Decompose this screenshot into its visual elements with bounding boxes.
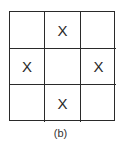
grid-cell-r2c2 — [45, 49, 81, 85]
grid-cell-r1c1 — [10, 12, 45, 49]
figure-caption: (b) — [0, 127, 121, 139]
grid-cell-r1c3 — [81, 12, 116, 49]
grid-cell-r3c1 — [10, 85, 45, 122]
grid-cell-r2c3: X — [81, 49, 116, 85]
tic-tac-toe-grid: X X X X — [9, 11, 115, 121]
grid-cell-r2c1: X — [10, 49, 45, 85]
grid-cell-r3c2: X — [45, 85, 81, 122]
grid-cell-r1c2: X — [45, 12, 81, 49]
grid-cell-r3c3 — [81, 85, 116, 122]
